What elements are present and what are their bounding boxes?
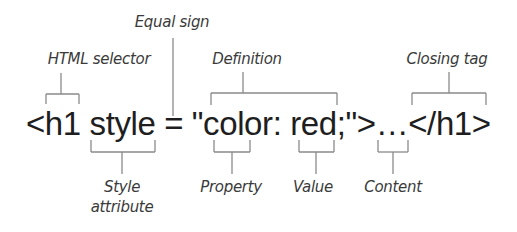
label-equal-sign: Equal sign — [135, 13, 210, 31]
label-attribute: attribute — [91, 198, 154, 216]
label-value: Value — [293, 178, 333, 196]
label-html-selector: HTML selector — [48, 50, 151, 68]
label-style: Style — [104, 178, 140, 196]
label-content: Content — [364, 178, 422, 196]
label-definition: Definition — [212, 50, 282, 68]
code-line: <h1 style = "color: red;">…</h1> — [26, 106, 491, 142]
label-closing-tag: Closing tag — [407, 50, 488, 68]
label-property: Property — [200, 178, 262, 196]
